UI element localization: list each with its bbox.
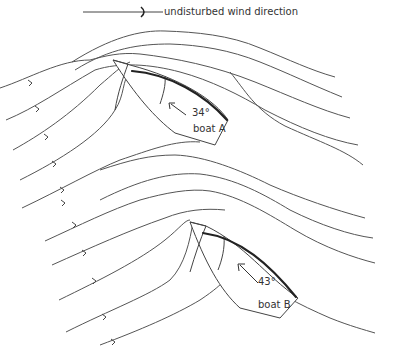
streamline (230, 72, 363, 165)
streamline (66, 222, 193, 332)
streamline (75, 44, 342, 97)
flow-arrow-icon (82, 250, 86, 256)
flow-arrow-icon (52, 161, 56, 167)
streamline (13, 62, 130, 150)
boat-a-angle: 34° (192, 107, 210, 118)
boat-b-label: boat B (258, 299, 291, 310)
boat-a: 34° boat A (113, 60, 228, 145)
legend: undisturbed wind direction (83, 6, 298, 17)
boat-b: 43° boat B (190, 222, 298, 318)
streamline (100, 280, 225, 345)
flow-arrow-icon (61, 200, 65, 206)
wind-flow-diagram: undisturbed wind direction 34° boat A (0, 0, 401, 353)
streamline (72, 31, 335, 77)
streamline (100, 155, 365, 218)
streamline (100, 174, 373, 238)
streamline (20, 72, 130, 180)
flow-arrow-icon (35, 106, 39, 112)
boat-b-angle: 43° (258, 276, 276, 287)
flow-arrow-icon (102, 314, 106, 320)
flow-arrow-icon (28, 80, 32, 86)
boat-a-label: boat A (193, 123, 226, 134)
streamline (59, 220, 190, 300)
flow-arrow-icon (44, 134, 48, 140)
legend-label: undisturbed wind direction (164, 6, 298, 17)
